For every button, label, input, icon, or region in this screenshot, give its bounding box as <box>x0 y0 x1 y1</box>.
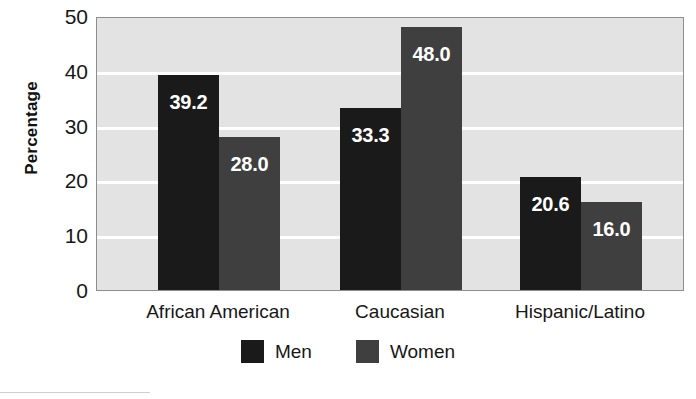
bar: 33.3 <box>340 108 401 290</box>
legend-swatch-icon <box>356 340 379 363</box>
y-axis-tick-label: 50 <box>0 6 88 27</box>
bar-value-label: 48.0 <box>401 43 462 66</box>
bar: 48.0 <box>401 27 462 290</box>
y-axis-tick-label: 0 <box>0 280 88 301</box>
bar-value-label: 39.2 <box>158 91 219 114</box>
bar: 28.0 <box>219 137 280 290</box>
bar-value-label: 28.0 <box>219 153 280 176</box>
legend-item-men[interactable]: Men <box>241 340 312 363</box>
x-axis-category-label: Hispanic/Latino <box>460 300 696 324</box>
bars-layer: 39.228.033.348.020.616.0 <box>97 18 683 290</box>
legend: MenWomen <box>0 340 696 363</box>
bar: 20.6 <box>520 177 581 290</box>
bar-value-label: 16.0 <box>581 218 642 241</box>
y-axis-tick-label: 30 <box>0 116 88 137</box>
bar-value-label: 20.6 <box>520 193 581 216</box>
y-axis-tick-label: 20 <box>0 170 88 191</box>
bar-value-label: 33.3 <box>340 124 401 147</box>
bar-chart: Percentage 01020304050 39.228.033.348.02… <box>0 0 696 399</box>
bottom-rule <box>0 392 150 393</box>
legend-swatch-icon <box>241 340 264 363</box>
legend-label: Women <box>390 340 455 363</box>
plot-area: 39.228.033.348.020.616.0 <box>96 17 684 291</box>
y-axis-tick-label: 40 <box>0 61 88 82</box>
y-axis-tick-label: 10 <box>0 225 88 246</box>
legend-label: Men <box>275 340 312 363</box>
bar: 39.2 <box>158 75 219 290</box>
bar: 16.0 <box>581 202 642 290</box>
x-axis-category-labels: African AmericanCaucasianHispanic/Latino <box>96 300 684 328</box>
legend-item-women[interactable]: Women <box>356 340 455 363</box>
